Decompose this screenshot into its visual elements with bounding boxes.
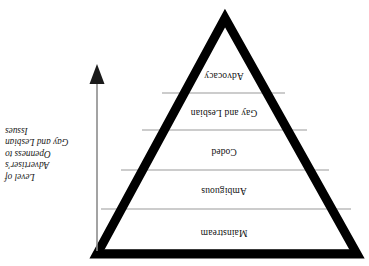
band-label-advocacy: Advocacy [164,70,284,81]
axis-caption: Level of Advertiser's Openness to Gay an… [5,124,93,182]
axis-caption-line-5: Issues [5,124,93,136]
axis-caption-line-3: Openness to [5,147,93,159]
band-label-coded: Coded [164,146,284,157]
axis-caption-line-1: Level of [5,170,93,182]
axis-caption-line-4: Gay and Lesbian [5,136,93,148]
band-label-mainstream: Mainstream [164,227,284,238]
figure-canvas: Mainstream Ambiguous Coded Gay and Lesbi… [0,0,369,266]
axis-caption-line-2: Advertiser's [5,159,93,171]
band-label-gay-and-lesbian: Gay and Lesbian [164,107,284,118]
band-label-ambiguous: Ambiguous [164,185,284,196]
rotated-stage: Mainstream Ambiguous Coded Gay and Lesbi… [0,0,369,266]
triangle-fill [97,18,357,254]
arrow-head-icon [90,64,105,84]
